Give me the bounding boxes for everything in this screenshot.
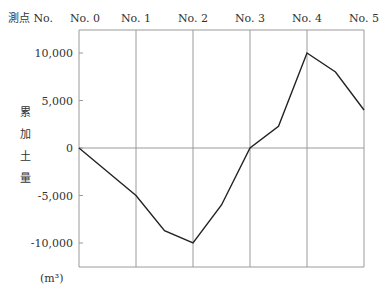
x-tick-label: No. 5 — [349, 13, 379, 24]
y-tick-label: 10,000 — [35, 48, 74, 59]
x-tick-label: No. 4 — [292, 13, 322, 24]
y-label-char: 量 — [20, 173, 31, 184]
y-tick-label: 5,000 — [42, 95, 74, 106]
grid-lines — [79, 30, 364, 267]
cumulative-earthwork-chart — [0, 0, 392, 298]
y-unit-label: (m³) — [40, 273, 63, 284]
x-axis-header: 測点 No. — [8, 13, 53, 24]
y-label-char: 加 — [20, 129, 31, 140]
x-tick-label: No. 1 — [121, 13, 151, 24]
y-label-char: 土 — [20, 151, 31, 162]
y-label-char: 累 — [20, 107, 31, 118]
x-tick-label: No. 0 — [70, 13, 100, 24]
y-tick-label: -10,000 — [31, 238, 73, 249]
y-tick-label: 0 — [66, 143, 73, 154]
x-tick-label: No. 3 — [235, 13, 265, 24]
y-tick-label: -5,000 — [38, 190, 73, 201]
x-tick-label: No. 2 — [178, 13, 208, 24]
